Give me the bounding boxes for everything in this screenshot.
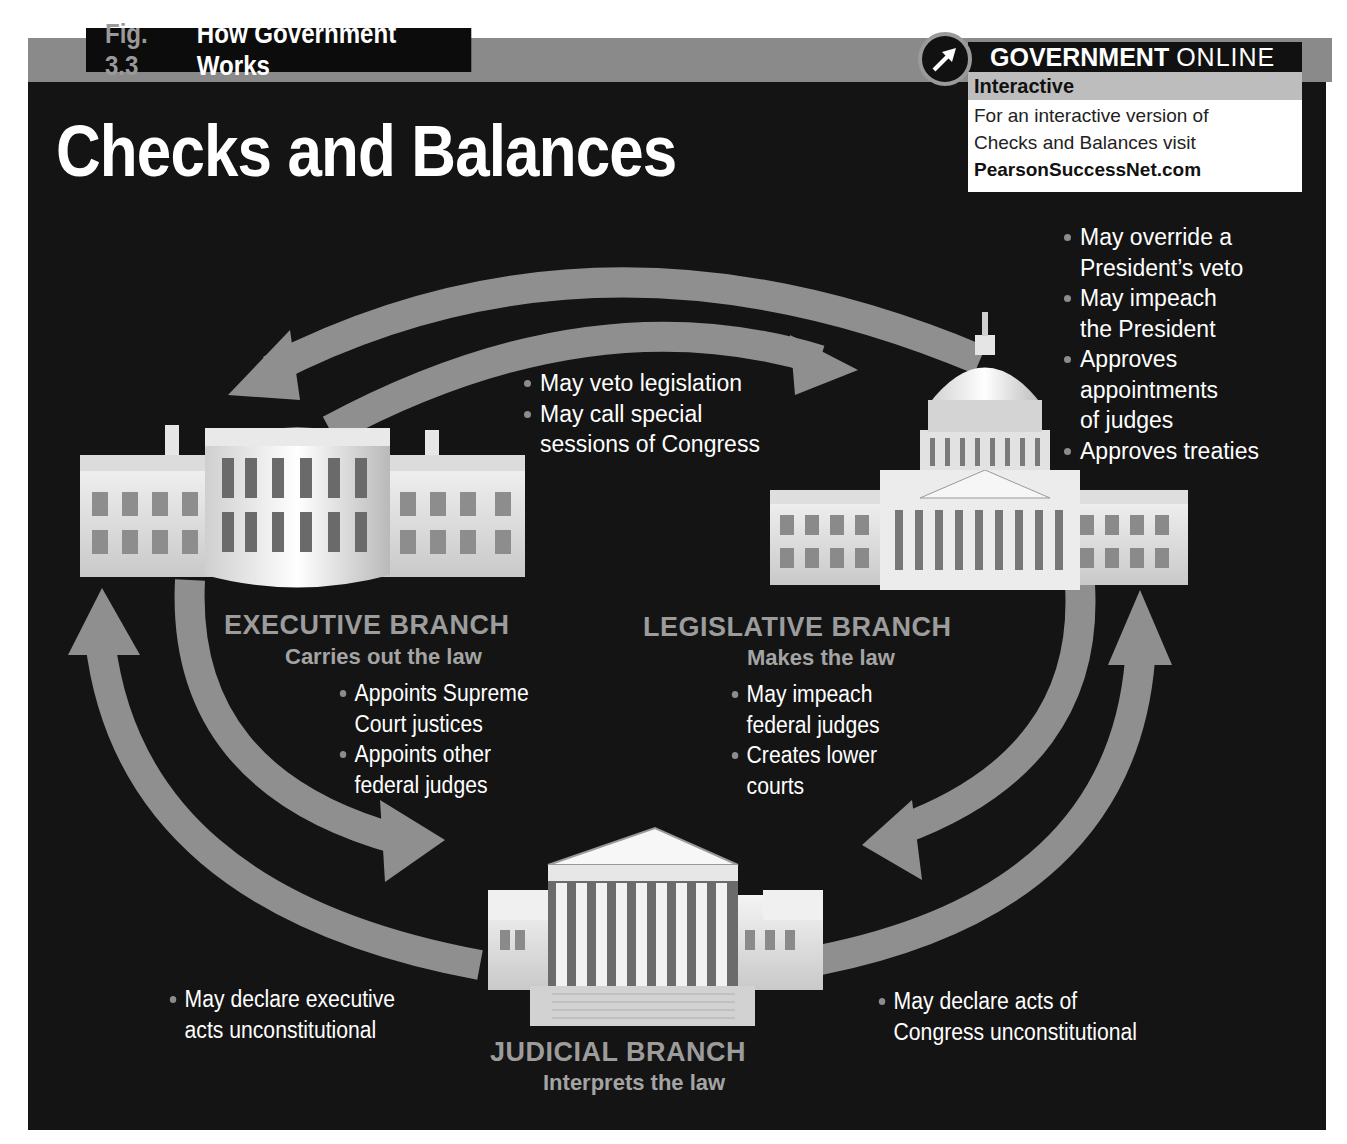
arrowhead-right-mid: [790, 335, 858, 395]
executive-branch-role: Carries out the law: [285, 644, 482, 670]
item-text: acts unconstitutional: [185, 1017, 377, 1043]
online-link[interactable]: PearsonSuccessNet.com: [974, 159, 1201, 180]
item-text: appointments: [1080, 377, 1218, 403]
item-text: courts: [747, 773, 805, 799]
item-text: May impeach: [747, 681, 873, 707]
judicial-branch-name: JUDICIAL BRANCH: [490, 1037, 746, 1068]
list-item: Approvesappointmentsof judges: [1062, 344, 1259, 436]
judicial-checks-executive: May declare executiveacts unconstitution…: [168, 984, 395, 1045]
arrowhead-down-left: [380, 800, 445, 882]
item-text: sessions of Congress: [540, 431, 760, 457]
list-item: May declare executiveacts unconstitution…: [168, 984, 395, 1045]
item-text: of judges: [1080, 407, 1173, 433]
arrowhead-left-up: [68, 588, 140, 655]
item-text: May call special: [540, 401, 702, 427]
list-item: Appoints SupremeCourt justices: [338, 678, 529, 739]
item-text: Creates lower: [747, 742, 878, 768]
online-line-1: For an interactive version of: [974, 102, 1296, 129]
judicial-branch-role: Interprets the law: [543, 1070, 725, 1096]
online-line-2: Checks and Balances visit: [974, 129, 1296, 156]
item-text: May override a: [1080, 224, 1232, 250]
list-item: May call specialsessions of Congress: [522, 399, 760, 460]
item-text: May veto legislation: [540, 370, 742, 396]
legislative-checks-judicial: May impeachfederal judges Creates lowerc…: [730, 679, 880, 801]
list-item: May impeachthe President: [1062, 283, 1259, 344]
exec-checks-legislative: May veto legislation May call specialses…: [522, 368, 760, 460]
supreme-court-icon: [488, 828, 823, 1026]
online-label: Interactive: [968, 72, 1302, 100]
arrowhead-right-up: [1108, 590, 1172, 665]
item-text: federal judges: [355, 772, 488, 798]
executive-branch-name: EXECUTIVE BRANCH: [224, 610, 510, 641]
item-text: May impeach: [1080, 285, 1217, 311]
item-text: Appoints other: [355, 741, 491, 767]
government-online-box: GOVERNMENT ONLINE Interactive For an int…: [960, 42, 1302, 192]
legislative-checks-executive: May override aPresident’s veto May impea…: [1062, 222, 1259, 466]
item-text: President’s veto: [1080, 255, 1243, 281]
arrow-cursor-icon: [918, 32, 972, 86]
list-item: May override aPresident’s veto: [1062, 222, 1259, 283]
item-text: Congress unconstitutional: [894, 1019, 1137, 1045]
list-item: May veto legislation: [522, 368, 760, 399]
item-text: federal judges: [747, 712, 880, 738]
item-text: Approves: [1080, 346, 1177, 372]
list-item: Appoints otherfederal judges: [338, 739, 529, 800]
item-text: May declare acts of: [894, 988, 1077, 1014]
white-house-icon: [80, 425, 525, 588]
arrowhead-down-right: [862, 800, 922, 880]
judicial-checks-legislative: May declare acts ofCongress unconstituti…: [877, 986, 1137, 1047]
brand-bold: GOVERNMENT: [990, 43, 1169, 71]
list-item: May impeachfederal judges: [730, 679, 880, 740]
list-item: May declare acts ofCongress unconstituti…: [877, 986, 1137, 1047]
item-text: May declare executive: [185, 986, 396, 1012]
legislative-branch-name: LEGISLATIVE BRANCH: [643, 612, 952, 643]
list-item: Creates lowercourts: [730, 740, 880, 801]
item-text: Approves treaties: [1080, 438, 1259, 464]
online-header: GOVERNMENT ONLINE: [968, 42, 1302, 72]
item-text: Appoints Supreme: [355, 680, 529, 706]
online-body: For an interactive version of Checks and…: [968, 100, 1302, 192]
list-item: Approves treaties: [1062, 436, 1259, 467]
exec-checks-judicial: Appoints SupremeCourt justices Appoints …: [338, 678, 529, 800]
item-text: Court justices: [355, 711, 483, 737]
brand-light: ONLINE: [1176, 43, 1275, 71]
legislative-branch-role: Makes the law: [747, 645, 895, 671]
item-text: the President: [1080, 316, 1216, 342]
arrowhead-left-top: [228, 330, 300, 400]
